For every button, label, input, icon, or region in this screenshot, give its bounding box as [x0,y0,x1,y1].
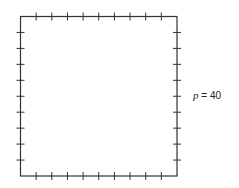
perimeter-label: p = 40 [193,89,221,101]
equals-sign: = [199,90,210,101]
tick-marks [17,13,182,181]
perimeter-value: 40 [210,90,221,101]
square-outline [21,17,178,177]
